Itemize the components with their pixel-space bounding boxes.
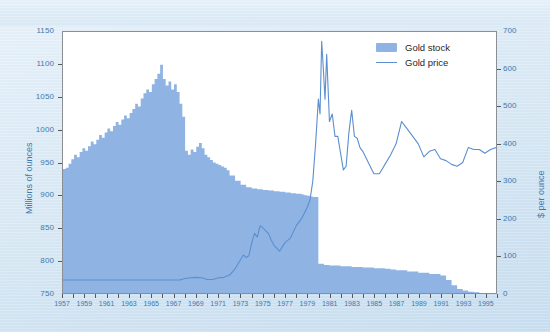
x-tick-mark <box>196 294 197 298</box>
x-tick-mark <box>464 294 465 298</box>
x-tick-mark <box>140 294 141 298</box>
y-axis-title-left: Millions of ounces <box>24 142 34 214</box>
gold-stock-area <box>63 65 496 293</box>
x-tick-mark <box>397 294 398 298</box>
x-tick-mark <box>73 294 74 298</box>
y-tick-label-right: 200 <box>503 214 533 223</box>
y-tick-label-left: 1150 <box>24 26 54 35</box>
x-tick-mark <box>162 294 163 298</box>
legend-label-gold-stock: Gold stock <box>405 42 450 53</box>
x-tick-mark <box>430 294 431 298</box>
x-tick-mark <box>352 294 353 298</box>
x-tick-mark <box>84 294 85 298</box>
legend-line-icon <box>376 58 397 67</box>
x-tick-mark <box>185 294 186 298</box>
y-tick-mark-left <box>58 64 62 65</box>
y-tick-label-right: 300 <box>503 176 533 185</box>
x-tick-mark <box>441 294 442 298</box>
y-tick-mark-left <box>58 261 62 262</box>
legend-item-gold-price: Gold price <box>376 55 488 70</box>
x-tick-mark <box>363 294 364 298</box>
x-tick-mark <box>497 294 498 298</box>
x-tick-mark <box>341 294 342 298</box>
x-tick-mark <box>62 294 63 298</box>
y-tick-label-right: 0 <box>503 289 533 298</box>
x-tick-mark <box>374 294 375 298</box>
y-tick-mark-left <box>58 130 62 131</box>
y-tick-mark-left <box>58 163 62 164</box>
y-tick-mark-right <box>497 256 501 257</box>
y-tick-mark-left <box>58 195 62 196</box>
y-tick-label-left: 1000 <box>24 125 54 134</box>
y-tick-label-left: 900 <box>24 190 54 199</box>
y-tick-label-left: 850 <box>24 223 54 232</box>
y-axis-title-right: $ per ounce <box>536 170 546 218</box>
x-tick-mark <box>151 294 152 298</box>
gold-stock-price-figure: Millions of ounces $ per ounce 750800850… <box>0 0 550 332</box>
y-tick-mark-right <box>497 69 501 70</box>
x-tick-mark <box>129 294 130 298</box>
x-tick-mark <box>475 294 476 298</box>
figure-top-band <box>0 0 550 26</box>
x-tick-mark <box>229 294 230 298</box>
x-tick-mark <box>285 294 286 298</box>
x-tick-mark <box>486 294 487 298</box>
x-tick-mark <box>252 294 253 298</box>
x-tick-mark <box>307 294 308 298</box>
y-tick-mark-left <box>58 97 62 98</box>
x-tick-mark <box>330 294 331 298</box>
y-tick-label-left: 750 <box>24 289 54 298</box>
y-tick-label-right: 600 <box>503 64 533 73</box>
x-tick-mark <box>107 294 108 298</box>
chart-legend: Gold stock Gold price <box>376 40 488 70</box>
x-tick-mark <box>240 294 241 298</box>
y-tick-label-left: 1100 <box>24 59 54 68</box>
y-tick-label-right: 500 <box>503 101 533 110</box>
chart-canvas <box>63 32 496 293</box>
x-tick-mark <box>207 294 208 298</box>
legend-swatch-icon <box>376 43 397 52</box>
x-tick-mark <box>419 294 420 298</box>
x-tick-mark <box>218 294 219 298</box>
legend-item-gold-stock: Gold stock <box>376 40 488 55</box>
x-tick-mark <box>174 294 175 298</box>
x-tick-mark <box>319 294 320 298</box>
y-tick-label-right: 400 <box>503 139 533 148</box>
y-tick-label-left: 950 <box>24 158 54 167</box>
y-tick-mark-right <box>497 219 501 220</box>
y-tick-label-left: 800 <box>24 256 54 265</box>
y-tick-mark-right <box>497 106 501 107</box>
x-tick-label: 1995 <box>471 300 501 307</box>
y-tick-label-right: 100 <box>503 251 533 260</box>
plot-area <box>62 31 497 294</box>
y-tick-label-right: 700 <box>503 26 533 35</box>
x-tick-mark <box>408 294 409 298</box>
legend-label-gold-price: Gold price <box>405 57 448 68</box>
x-tick-mark <box>296 294 297 298</box>
x-tick-mark <box>263 294 264 298</box>
x-tick-mark <box>274 294 275 298</box>
y-tick-label-left: 1050 <box>24 92 54 101</box>
x-tick-mark <box>452 294 453 298</box>
x-tick-mark <box>385 294 386 298</box>
x-tick-mark <box>95 294 96 298</box>
y-tick-mark-right <box>497 144 501 145</box>
y-tick-mark-left <box>58 228 62 229</box>
x-tick-mark <box>118 294 119 298</box>
y-tick-mark-right <box>497 181 501 182</box>
